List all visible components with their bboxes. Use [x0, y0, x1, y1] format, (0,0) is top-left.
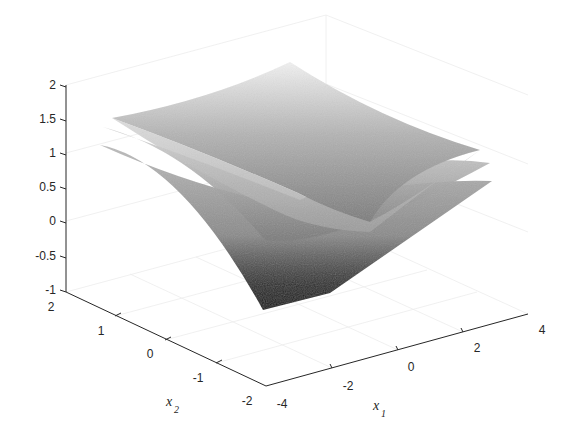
- z-tick-label: 0.5: [39, 180, 56, 194]
- svg-text:x: x: [372, 398, 380, 413]
- x1-tick-label: -2: [343, 379, 354, 393]
- x2-tick-label: 2: [48, 300, 55, 314]
- surface-plot-3d: 2 1.5 1 0.5 0 -0.5 -1 2 1 0 -1 -2 x 2 -4…: [0, 0, 575, 439]
- z-tick-label: 1: [49, 146, 56, 160]
- x1-axis-line: [266, 314, 528, 386]
- x2-tick-label: -2: [242, 394, 253, 408]
- x2-axis-label: x 2: [165, 394, 179, 415]
- z-tick-label: 1.5: [39, 112, 56, 126]
- z-tick-labels: 2 1.5 1 0.5 0 -0.5 -1: [35, 78, 56, 297]
- z-tick-label: 2: [49, 78, 56, 92]
- svg-text:x: x: [165, 394, 173, 409]
- x2-tick-label: -1: [193, 371, 204, 385]
- x1-axis-label: x 1: [372, 398, 386, 419]
- x1-tick-label: -4: [277, 397, 288, 411]
- z-tick-label: 0: [49, 214, 56, 228]
- z-tick-label: -1: [45, 283, 56, 297]
- x1-tick-label: 0: [408, 360, 415, 374]
- x1-tick-label: 4: [539, 323, 546, 337]
- x2-tick-label: 1: [98, 324, 105, 338]
- x2-tick-label: 0: [147, 347, 154, 361]
- x1-tick-label: 2: [474, 341, 481, 355]
- z-tick-label: -0.5: [35, 249, 56, 263]
- x1-tick-labels: -4 -2 0 2 4: [277, 323, 546, 411]
- x2-tick-labels: 2 1 0 -1 -2: [48, 300, 253, 408]
- svg-text:2: 2: [174, 404, 179, 415]
- svg-text:1: 1: [381, 408, 386, 419]
